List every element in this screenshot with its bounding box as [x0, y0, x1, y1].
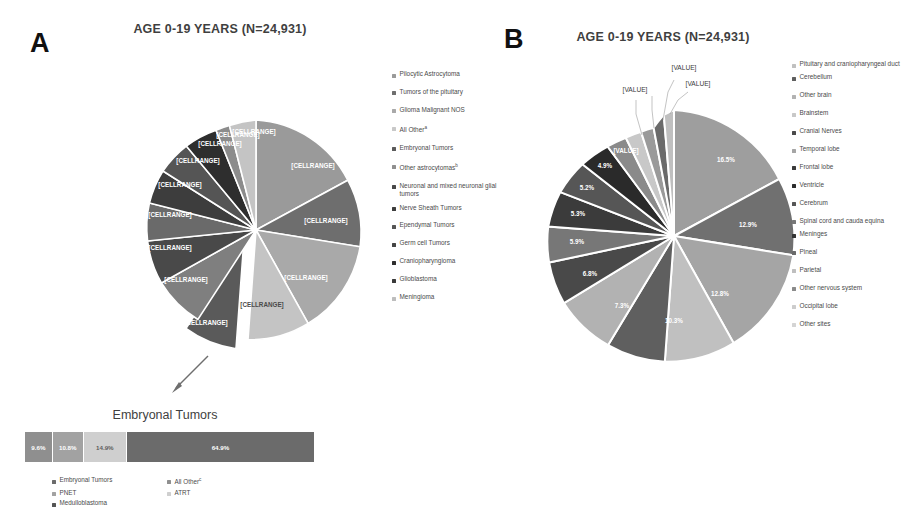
bar-segment-3[interactable]: 64.9%: [127, 432, 314, 462]
legend-item-meninges[interactable]: Meninges: [792, 230, 912, 238]
legend-swatch-icon: [392, 243, 396, 247]
bar-legend-item-pnet[interactable]: PNET: [52, 489, 167, 497]
legend-item-embryonal-tumors[interactable]: Embryonal Tumors: [392, 144, 497, 152]
legend-swatch-icon: [392, 91, 396, 95]
legend-item-germ-cell-tumors[interactable]: Germ cell Tumors: [392, 239, 497, 247]
legend-item-frontal-lobe[interactable]: Frontal lobe: [792, 163, 912, 171]
legend-label: Nerve Sheath Tumors: [400, 204, 462, 212]
legend-item-parietal[interactable]: Parietal: [792, 266, 912, 274]
pie-b-label-9: 4.9%: [598, 162, 613, 169]
panel-b-pie: 16.5% 12.9% 12.8% 10.3% 7.3% 6.8% 5.9% 5…: [502, 40, 802, 370]
legend-swatch-icon: [792, 77, 796, 81]
legend-item-cranial-nerves[interactable]: Cranial Nerves: [792, 127, 912, 135]
legend-label: PNET: [60, 489, 77, 497]
panel-a-slices: [147, 120, 361, 349]
footnote-marker: c: [199, 477, 201, 482]
legend-item-glioblastoma[interactable]: Glioblastoma: [392, 275, 497, 283]
pie-a-label-4: [CELLRANGE]: [184, 319, 227, 327]
legend-label: Other brain: [800, 91, 832, 99]
legend-item-craniopharyngioma[interactable]: Craniopharyngioma: [392, 257, 497, 265]
legend-item-cerebrum[interactable]: Cerebrum: [792, 199, 912, 207]
legend-item-other-astrocytomas[interactable]: Other astrocytomasb: [392, 162, 497, 173]
legend-item-ventricle[interactable]: Ventricle: [792, 181, 912, 189]
legend-label: Pilocytic Astrocytoma: [400, 70, 460, 78]
legend-label: Craniopharyngioma: [400, 257, 456, 265]
legend-item-other-nervous-system[interactable]: Other nervous system: [792, 284, 912, 292]
bar-segment-0[interactable]: 9.6%: [25, 432, 53, 462]
legend-item-cerebellum[interactable]: Cerebellum: [792, 73, 912, 81]
legend-swatch-icon: [392, 127, 396, 131]
legend-swatch-icon: [792, 251, 796, 255]
embryonal-bar-title: Embryonal Tumors: [20, 408, 310, 422]
legend-label: ATRT: [175, 489, 191, 497]
legend-item-spinal-cord-and-cauda-equina[interactable]: Spinal cord and cauda equina: [792, 217, 912, 225]
legend-label: Cerebellum: [800, 73, 833, 81]
legend-item-pilocytic-astrocytoma[interactable]: Pilocytic Astrocytoma: [392, 70, 497, 78]
bar-legend-item-medulloblastoma[interactable]: Medulloblastoma: [52, 499, 167, 507]
legend-swatch-icon: [792, 202, 796, 206]
legend-swatch-icon: [392, 279, 396, 283]
legend-label: Germ cell Tumors: [400, 239, 450, 247]
pie-a-label-7: [CELLRANGE]: [148, 211, 191, 219]
panel-a: A AGE 0-19 YEARS (N=24,931): [0, 0, 500, 400]
legend-label: Cerebrum: [800, 199, 828, 207]
legend-label: Brainstem: [800, 109, 829, 117]
legend-item-ependymal-tumors[interactable]: Ependymal Tumors: [392, 221, 497, 229]
legend-item-other-brain[interactable]: Other brain: [792, 91, 912, 99]
panel-a-letter: A: [30, 30, 50, 57]
bar-legend-item-embryonal-tumors[interactable]: Embryonal Tumors: [52, 476, 167, 486]
legend-label: Occipital lobe: [800, 302, 838, 310]
pie-b-label-7: 5.3%: [571, 210, 586, 217]
legend-item-nerve-sheath-tumors[interactable]: Nerve Sheath Tumors: [392, 204, 497, 212]
bar-legend-item-all-other[interactable]: All Otherc: [167, 476, 282, 486]
legend-swatch-icon: [392, 147, 396, 151]
legend-label: Glioma Malignant NOS: [400, 106, 465, 114]
legend-item-pituitary-and-craniopharyngeal-duct[interactable]: Pituitary and craniopharyngeal duct: [792, 60, 912, 68]
legend-item-brainstem[interactable]: Brainstem: [792, 109, 912, 117]
legend-label: Pineal: [800, 248, 818, 256]
legend-item-glioma-malignant-nos[interactable]: Glioma Malignant NOS: [392, 106, 497, 114]
bar-segment-2[interactable]: 14.9%: [84, 432, 127, 462]
legend-swatch-icon: [792, 305, 796, 309]
pie-a-label-0: [CELLRANGE]: [291, 162, 334, 170]
pie-b-label-6: 5.9%: [570, 238, 585, 245]
legend-swatch-icon: [792, 323, 796, 327]
legend-label: Pituitary and craniopharyngeal duct: [800, 60, 900, 68]
legend-item-tumors-of-the-pituitary[interactable]: Tumors of the pituitary: [392, 88, 497, 96]
legend-swatch-icon: [392, 165, 396, 169]
legend-swatch-icon: [792, 149, 796, 153]
pie-a-label-12: [CELLRANGE]: [232, 128, 275, 136]
pie-a-label-6: [CELLRANGE]: [148, 244, 191, 252]
legend-item-meningioma[interactable]: Meningioma: [392, 293, 497, 301]
legend-swatch-icon: [792, 220, 796, 224]
pie-b-label-10: [VALUE]: [613, 147, 638, 155]
legend-swatch-icon: [792, 113, 796, 117]
legend-swatch-icon: [792, 287, 796, 291]
legend-swatch-icon: [52, 480, 56, 484]
legend-item-pineal[interactable]: Pineal: [792, 248, 912, 256]
pie-b-label-4: 7.3%: [615, 302, 630, 309]
legend-item-all-other[interactable]: All Othera: [392, 124, 497, 135]
legend-swatch-icon: [52, 492, 56, 496]
legend-label: All Othera: [400, 124, 427, 135]
panel-a-legend: Pilocytic Astrocytoma Tumors of the pitu…: [392, 70, 497, 311]
legend-label: Cranial Nerves: [800, 127, 842, 135]
legend-label: Meninges: [800, 230, 828, 238]
legend-item-other-sites[interactable]: Other sites: [792, 320, 912, 328]
legend-item-neuronal-and-mixed-neuronal-glial-tumors[interactable]: Neuronal and mixed neuronal glial tumors: [392, 182, 497, 199]
legend-swatch-icon: [392, 207, 396, 211]
bar-segment-1[interactable]: 10.8%: [53, 432, 84, 462]
legend-item-temporal-lobe[interactable]: Temporal lobe: [792, 145, 912, 153]
pie-b-label-1: 12.9%: [739, 221, 757, 228]
legend-label: Meningioma: [400, 293, 435, 301]
bar-legend-item-atrt[interactable]: ATRT: [167, 489, 282, 497]
legend-item-occipital-lobe[interactable]: Occipital lobe: [792, 302, 912, 310]
legend-label: Spinal cord and cauda equina: [800, 217, 885, 225]
legend-swatch-icon: [792, 184, 796, 188]
legend-swatch-icon: [167, 492, 171, 496]
pie-a-label-1: [CELLRANGE]: [304, 217, 347, 225]
panel-b-legend: Pituitary and craniopharyngeal duct Cere…: [792, 60, 912, 338]
panel-a-title: AGE 0-19 YEARS (N=24,931): [70, 22, 370, 36]
legend-label: All Otherc: [175, 476, 202, 486]
pie-b-callout-1: [VALUE]: [672, 64, 697, 72]
